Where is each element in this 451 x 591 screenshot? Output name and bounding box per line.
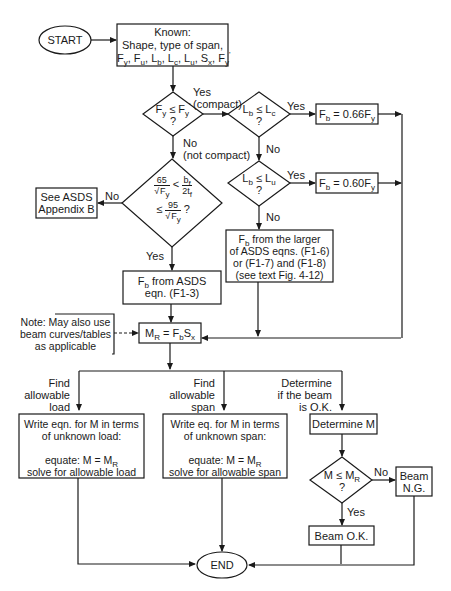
start-label: START	[39, 34, 91, 46]
fb-larger-line2: of ASDS eqns. (F1-6)	[230, 245, 330, 257]
no-label: No	[183, 137, 197, 149]
fb-060-label: Fb = 0.60Fy	[316, 177, 378, 189]
fb-larger-line3: or (F1-7) and (F1-8)	[233, 257, 326, 269]
m-check-no-label: No	[374, 466, 388, 478]
fb-066-label: Fb = 0.66Fy	[316, 108, 378, 120]
m-check-yes-label: Yes	[347, 506, 365, 518]
load-box-label: Write eqn. for M in terms of unknown loa…	[19, 418, 144, 478]
fb-larger-line4: (see text Fig. 4-12)	[235, 269, 323, 281]
see-appendix-label: See ASDS Appendix B	[36, 191, 97, 215]
lb-lc-no-label: No	[266, 143, 280, 155]
span-box-label: Write eq. for M in terms of unknown span…	[163, 418, 287, 478]
see-appendix-line1: See ASDS	[41, 191, 93, 203]
beam-ok-label: Beam O.K.	[309, 530, 374, 542]
lb-lc-yes-label: Yes	[287, 100, 305, 112]
branch-ok-label: Determineif the beamis O.K.	[265, 377, 332, 413]
branch-load-label: Findallowableload	[20, 377, 70, 413]
note-label: Note: May also use beam curves/tables as…	[18, 316, 113, 352]
beam-ng-label: BeamN.G.	[396, 470, 432, 494]
fb-f13-line2: eqn. (F1-3)	[145, 287, 199, 299]
branch-span-label: Findallowablespan	[160, 377, 215, 413]
flange-check-label: 65√Fy < bf2tf ≤ 95√Fy ?	[128, 175, 218, 221]
note-line1: Note: May also use	[21, 316, 111, 328]
not-compact-label: (not compact)	[183, 149, 250, 161]
mr-label: MR = FbSx	[139, 327, 201, 339]
end-label: END	[197, 559, 247, 571]
flange-yes-label: Yes	[146, 250, 164, 262]
lb-lu-yes-label: Yes	[287, 169, 305, 181]
known-title: Known:	[117, 26, 228, 38]
flange-no-label: No	[105, 190, 119, 202]
lb-lc-check-label: Lb ≤ Lc?	[228, 103, 290, 127]
determine-m-label: Determine M	[310, 418, 377, 430]
yes-label: Yes	[193, 86, 211, 98]
known-line1: Shape, type of span,	[117, 39, 228, 51]
lb-lu-check-label: Lb ≤ Lu?	[228, 172, 290, 196]
lb-lu-no-label: No	[266, 211, 280, 223]
fb-larger-label: Fb Fb from the largerfrom the larger of …	[226, 233, 333, 281]
m-check-label: M ≤ MR?	[312, 469, 372, 493]
fb-f13-label: Fb from ASDS eqn. (F1-3)	[123, 275, 221, 299]
see-appendix-line2: Appendix B	[38, 203, 94, 215]
no-not-compact-label: No(not compact)	[183, 137, 250, 161]
known-vars: Fy, Fu, Lb, Lc, Lu, Sx, Fy'	[117, 52, 228, 64]
note-line3: as applicable	[35, 340, 96, 352]
note-line2: beam curves/tables	[20, 328, 111, 340]
